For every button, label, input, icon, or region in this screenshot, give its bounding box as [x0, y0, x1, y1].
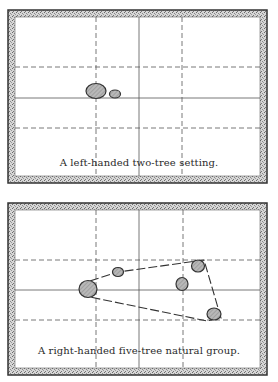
tree-icon: [79, 281, 97, 298]
tree-icon: [113, 268, 124, 277]
tree-icon: [207, 308, 221, 320]
panel-five-tree-group: A right-handed five-tree natural group.: [0, 0, 278, 382]
diagram-five-tree: [0, 0, 278, 382]
tree-icon: [176, 278, 188, 291]
caption-five-tree: A right-handed five-tree natural group.: [0, 345, 278, 356]
tree-icon: [192, 260, 205, 272]
